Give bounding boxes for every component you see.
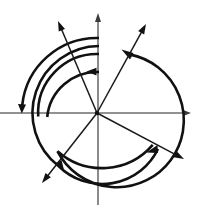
- ray-upper-left-arrowhead: [58, 21, 65, 32]
- arc-ring-3: [38, 54, 99, 117]
- arc-outer-circle: [58, 54, 184, 187]
- arc-ring-4: [47, 72, 99, 117]
- origin-point: [95, 111, 99, 115]
- ray-upper-right-arrowhead: [138, 24, 146, 34]
- figure-canvas: [0, 0, 198, 218]
- arc-ring-4-arrowhead: [87, 68, 97, 76]
- arc-ring-1-arrowhead: [18, 104, 26, 114]
- vertical-axis-arrowhead: [95, 13, 101, 22]
- ray-upper-right: [97, 32, 142, 113]
- ray-lower-right: [97, 113, 176, 155]
- spiral-ray-diagram: [0, 0, 198, 218]
